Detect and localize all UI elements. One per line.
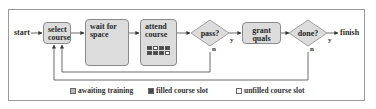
slot-unfilled — [165, 51, 170, 55]
legend-unfilled-slot: unfilled course slot — [236, 86, 304, 95]
awaiting-swatch-icon — [70, 88, 76, 94]
pass-yes-label: y — [230, 36, 234, 44]
course-slots-icon — [147, 46, 170, 55]
slot-filled — [153, 51, 158, 55]
done-no-label: n — [310, 45, 314, 53]
legend-label: filled course slot — [156, 86, 208, 95]
grant-quals-node: grant quals — [242, 22, 281, 44]
pass-no-label: n — [212, 45, 216, 53]
legend-filled-slot: filled course slot — [148, 86, 208, 95]
done-yes-label: y — [328, 36, 332, 44]
done-decision-label: done? — [293, 29, 323, 38]
wait-for-space-node: wait for space — [85, 19, 129, 66]
slot-filled — [147, 46, 152, 50]
wait-for-space-label: wait for space — [86, 20, 128, 39]
select-course-node: select course — [43, 22, 71, 44]
attend-course-node: attend course — [140, 19, 177, 66]
pass-decision-label: pass? — [195, 29, 225, 38]
select-course-label: select course — [44, 23, 70, 42]
grant-quals-label: grant quals — [243, 23, 280, 43]
start-label: start — [14, 28, 30, 37]
slot-filled — [159, 46, 164, 50]
attend-course-label: attend course — [141, 20, 176, 39]
slot-unfilled — [153, 46, 158, 50]
slot-filled — [147, 51, 152, 55]
legend-label: unfilled course slot — [244, 86, 304, 95]
slot-filled — [159, 51, 164, 55]
legend-label: awaiting training — [78, 86, 133, 95]
legend-awaiting-training: awaiting training — [70, 86, 133, 95]
filled-swatch-icon — [148, 88, 154, 94]
unfilled-swatch-icon — [236, 88, 242, 94]
finish-label: finish — [340, 28, 359, 37]
slot-filled — [165, 46, 170, 50]
